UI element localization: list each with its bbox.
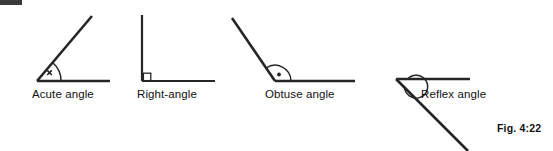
obtuse-angle-diagram — [232, 18, 355, 81]
acute-angle-cross-mark — [47, 70, 52, 75]
caption-acute-angle: Acute angle — [32, 88, 94, 100]
caption-obtuse-angle: Obtuse angle — [265, 88, 335, 100]
obtuse-sloping-ray — [232, 18, 275, 81]
reflex-angle-diagram — [396, 75, 470, 151]
right-angle-square-mark — [143, 73, 150, 80]
angle-types-figure: Acute angle Right-angle Obtuse angle Ref… — [0, 0, 553, 151]
acute-sloping-ray — [37, 16, 92, 81]
acute-angle-arc — [53, 63, 62, 82]
obtuse-angle-dot-mark — [277, 73, 281, 77]
acute-angle-diagram — [37, 16, 110, 81]
caption-reflex-angle: Reflex angle — [421, 88, 486, 100]
caption-right-angle: Right-angle — [137, 88, 197, 100]
figure-number-label: Fig. 4:22 — [497, 122, 541, 134]
right-angle-diagram — [142, 15, 215, 81]
angle-diagrams-canvas — [0, 0, 553, 151]
